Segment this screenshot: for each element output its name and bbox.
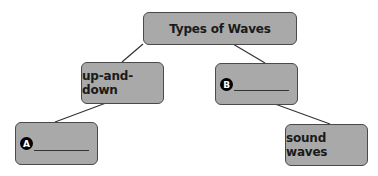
node-up-and-down: up-and-down <box>81 62 164 104</box>
marker-a-badge: A <box>20 137 33 150</box>
node-sound-waves: sound waves <box>285 124 368 166</box>
node-b-blank: B <box>215 63 298 105</box>
root-node-types-of-waves: Types of Waves <box>143 12 297 45</box>
sound-waves-label: sound waves <box>286 131 367 159</box>
marker-b-badge: B <box>220 78 233 91</box>
answer-blank-a[interactable] <box>34 150 89 151</box>
up-and-down-label: up-and-down <box>82 69 163 97</box>
root-label: Types of Waves <box>169 22 271 36</box>
node-a-blank: A <box>15 122 98 165</box>
answer-blank-b[interactable] <box>234 90 289 91</box>
